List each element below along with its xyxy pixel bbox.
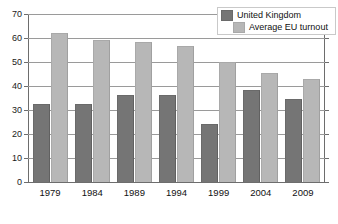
bar-group-2004 xyxy=(240,14,282,182)
bar-eu-1994 xyxy=(177,46,194,182)
bar-chart: 010203040506070 197919841989199419992004… xyxy=(0,0,338,224)
y-axis-label-60: 60 xyxy=(12,34,22,43)
x-axis-label-2004: 2004 xyxy=(240,188,282,198)
bar-uk-1984 xyxy=(75,104,92,182)
bar-group-1994 xyxy=(155,14,197,182)
x-axis-label-1989: 1989 xyxy=(113,188,155,198)
y-tick-left-50 xyxy=(24,62,28,63)
y-axis-label-40: 40 xyxy=(12,82,22,91)
bar-group-1984 xyxy=(71,14,113,182)
y-tick-right-0 xyxy=(325,182,329,183)
bar-uk-1994 xyxy=(159,95,176,182)
x-axis-labels: 1979198419891994199920042009 xyxy=(29,188,324,204)
bar-uk-2009 xyxy=(285,99,302,182)
chart-legend: United Kingdom Average EU turnout xyxy=(217,7,336,35)
bar-eu-1989 xyxy=(135,42,152,182)
y-tick-right-20 xyxy=(325,134,329,135)
y-axis-label-10: 10 xyxy=(12,154,22,163)
bar-eu-1984 xyxy=(93,40,110,182)
y-tick-left-70 xyxy=(24,14,28,15)
y-axis-label-50: 50 xyxy=(12,58,22,67)
y-tick-left-20 xyxy=(24,134,28,135)
bar-eu-2009 xyxy=(303,79,320,182)
y-tick-right-10 xyxy=(325,158,329,159)
bar-uk-1989 xyxy=(117,95,134,182)
y-tick-right-30 xyxy=(325,110,329,111)
light-gray-swatch-icon xyxy=(233,22,245,33)
x-axis-label-2009: 2009 xyxy=(282,188,324,198)
y-tick-left-60 xyxy=(24,38,28,39)
y-tick-left-10 xyxy=(24,158,28,159)
x-axis-label-1994: 1994 xyxy=(155,188,197,198)
y-axis-label-0: 0 xyxy=(17,178,22,187)
gridline-0 xyxy=(28,182,325,183)
y-axis-label-70: 70 xyxy=(12,10,22,19)
x-axis-label-1979: 1979 xyxy=(29,188,71,198)
dark-gray-swatch-icon xyxy=(221,10,233,21)
y-tick-right-50 xyxy=(325,62,329,63)
bar-uk-2004 xyxy=(243,90,260,182)
y-axis-labels: 010203040506070 xyxy=(0,14,22,182)
legend-entry-average-eu-turnout: Average EU turnout xyxy=(221,22,332,33)
plot-area xyxy=(28,14,325,182)
bar-group-2009 xyxy=(282,14,324,182)
bar-group-1989 xyxy=(113,14,155,182)
legend-entry-united-kingdom: United Kingdom xyxy=(221,10,332,21)
legend-label-united-kingdom: United Kingdom xyxy=(237,11,301,20)
bar-uk-1999 xyxy=(201,124,218,182)
y-axis-label-20: 20 xyxy=(12,130,22,139)
bar-eu-1999 xyxy=(219,62,236,182)
bar-eu-1979 xyxy=(51,33,68,182)
y-tick-left-40 xyxy=(24,86,28,87)
bar-eu-2004 xyxy=(261,73,278,182)
y-tick-right-60 xyxy=(325,38,329,39)
bar-group-1979 xyxy=(29,14,71,182)
y-tick-right-40 xyxy=(325,86,329,87)
y-tick-left-30 xyxy=(24,110,28,111)
y-axis-label-30: 30 xyxy=(12,106,22,115)
legend-label-average-eu-turnout: Average EU turnout xyxy=(249,23,328,32)
bar-uk-1979 xyxy=(33,104,50,182)
bar-group-1999 xyxy=(198,14,240,182)
y-axis-right-line xyxy=(324,14,325,182)
x-axis-label-1984: 1984 xyxy=(71,188,113,198)
y-tick-left-0 xyxy=(24,182,28,183)
x-axis-label-1999: 1999 xyxy=(198,188,240,198)
bar-groups xyxy=(29,14,324,182)
